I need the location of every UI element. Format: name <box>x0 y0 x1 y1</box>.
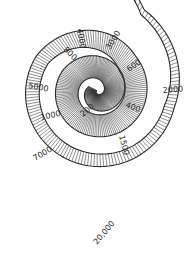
spiral-band <box>26 0 180 167</box>
spiral-diagram: 200 400 600 800 1000 1500 2000 3000 4000… <box>0 0 192 264</box>
label-7000: 7000 <box>32 145 54 163</box>
label-4000: 4000 <box>75 28 87 50</box>
label-20000: 20,000 <box>92 219 117 246</box>
label-1000: 1000 <box>40 109 62 122</box>
label-1500: 1500 <box>117 134 131 156</box>
label-600: 600 <box>125 58 143 74</box>
label-2000: 2000 <box>162 84 183 95</box>
